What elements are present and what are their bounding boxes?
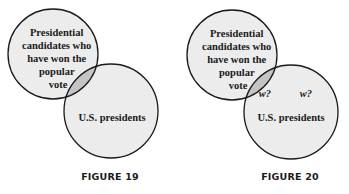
region-b-marker: w? [300, 88, 312, 99]
venn-diagrams: Presidential candidates who have won the… [0, 0, 349, 194]
figure-20: Presidential candidates who have won the… [187, 10, 338, 182]
overlap-marker: w? [259, 88, 271, 99]
figure-19: Presidential candidates who have won the… [8, 9, 158, 182]
figure-caption: FIGURE 20 [261, 171, 319, 182]
set-b-label: U.S. presidents [257, 112, 324, 123]
figure-caption: FIGURE 19 [81, 171, 139, 182]
set-b-label: U.S. presidents [78, 112, 145, 123]
